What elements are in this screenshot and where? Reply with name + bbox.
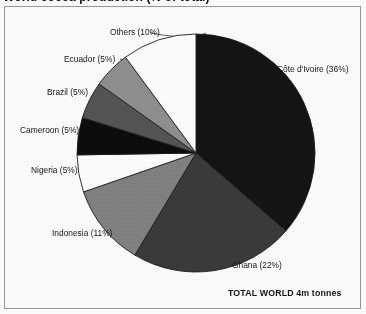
total-world-note: TOTAL WORLD 4m tonnes	[228, 288, 342, 298]
pie-chart-plot	[0, 0, 366, 314]
slice-label-brazil: Brazil (5%)	[47, 87, 88, 97]
pie-chart-figure: World cocoa production (% of total)	[0, 0, 366, 314]
slice-label-nigeria: Nigeria (5%)	[31, 165, 78, 175]
slice-label-cameroon: Cameroon (5%)	[20, 125, 79, 135]
slice-label-ecuador: Ecuador (5%)	[64, 54, 115, 64]
slice-label-cote-divoire: Côte d'Ivoire (36%)	[277, 64, 348, 74]
slice-label-others: Others (10%)	[110, 27, 160, 37]
slice-label-indonesia: Indonesia (11%)	[52, 228, 112, 238]
slice-label-ghana: Ghana (22%)	[232, 260, 282, 270]
